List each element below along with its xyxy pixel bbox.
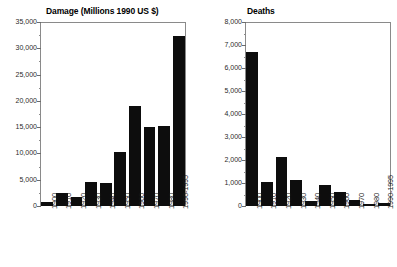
x-tick-label-damage: 1900 [51, 193, 59, 209]
x-tick-label-damage: 1970 [153, 193, 161, 209]
x-tick-label-damage: 1910 [65, 193, 73, 209]
bars-deaths [200, 0, 397, 267]
x-tick-label-deaths: 1900 [256, 193, 264, 209]
x-tick-label-deaths: 1950 [329, 193, 337, 209]
x-tick-label-damage: 1960 [138, 193, 146, 209]
x-tick-label-deaths: 1960 [343, 193, 351, 209]
bar-damage-1960 [129, 106, 141, 206]
bars-damage [0, 0, 200, 267]
figure-two-bar-charts: Damage (Millions 1990 US $) 05,00010,000… [0, 0, 397, 267]
bar-deaths-1900 [246, 52, 258, 206]
x-tick-label-damage: 1980 [168, 193, 176, 209]
x-tick-label-damage: 1920 [80, 193, 88, 209]
x-tick-label-deaths: 1970 [358, 193, 366, 209]
x-tick-label-deaths: 1920 [285, 193, 293, 209]
x-tick-label-deaths: 1940 [314, 193, 322, 209]
x-tick-label-deaths: 1930 [300, 193, 308, 209]
x-tick-label-deaths: 1910 [270, 193, 278, 209]
x-tick-label-damage: 1950 [124, 193, 132, 209]
chart-panel-deaths: Deaths 01,0002,0003,0004,0005,0006,0007,… [200, 0, 397, 267]
x-tick-label-damage: 1930 [95, 193, 103, 209]
x-tick-label-damage: 1990-1995 [182, 175, 190, 209]
x-tick-label-deaths: 1990-1995 [387, 175, 395, 209]
x-tick-label-deaths: 1980 [373, 193, 381, 209]
chart-panel-damage: Damage (Millions 1990 US $) 05,00010,000… [0, 0, 200, 267]
x-tick-label-damage: 1940 [109, 193, 117, 209]
